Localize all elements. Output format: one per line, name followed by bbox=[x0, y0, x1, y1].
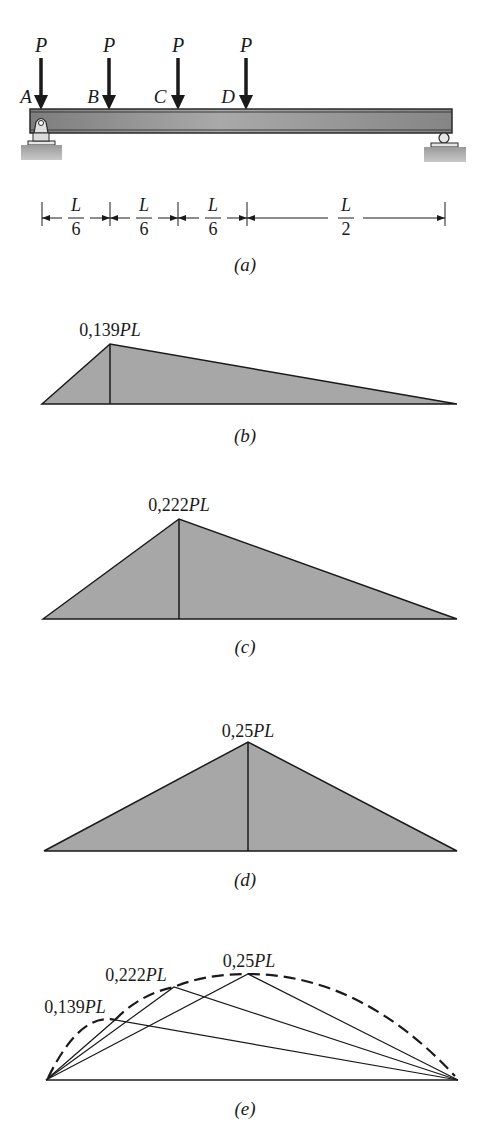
load-arrow-d: P bbox=[239, 34, 253, 110]
load-label: P bbox=[34, 34, 47, 56]
dimension-label-2: L 6 bbox=[136, 195, 152, 239]
moment-line-c bbox=[46, 987, 458, 1080]
point-label-a: A bbox=[18, 86, 32, 107]
peak-moment-label: 0,139PL bbox=[79, 320, 141, 340]
svg-text:L: L bbox=[70, 195, 81, 215]
panel-b-moment-diagram: 0,139PL (b) bbox=[42, 320, 457, 447]
point-label-c: C bbox=[154, 86, 167, 107]
caption-e: (e) bbox=[234, 1098, 255, 1120]
roller-support-icon bbox=[424, 133, 466, 162]
svg-text:L: L bbox=[138, 195, 149, 215]
arrow-down-icon bbox=[102, 95, 116, 110]
caption-d: (d) bbox=[234, 869, 256, 891]
arrow-down-icon bbox=[239, 95, 253, 110]
load-arrow-c: P bbox=[171, 34, 185, 110]
moment-line-b bbox=[46, 1020, 458, 1080]
caption-c: (c) bbox=[234, 636, 255, 658]
envelope-label-2: 0,222PL bbox=[105, 965, 167, 985]
panel-a-beam: P P P P A B C D bbox=[18, 34, 466, 276]
caption-b: (b) bbox=[234, 425, 256, 447]
moment-triangle bbox=[44, 742, 457, 851]
svg-text:6: 6 bbox=[140, 219, 149, 239]
panel-c-moment-diagram: 0,222PL (c) bbox=[43, 495, 457, 658]
dimension-line bbox=[42, 202, 445, 226]
svg-text:6: 6 bbox=[209, 219, 218, 239]
peak-moment-label: 0,222PL bbox=[148, 495, 210, 515]
dimension-label-3: L 6 bbox=[205, 195, 221, 239]
svg-text:6: 6 bbox=[72, 219, 81, 239]
beam bbox=[30, 109, 452, 133]
load-label: P bbox=[239, 34, 252, 56]
moment-triangle bbox=[42, 344, 457, 404]
caption-a: (a) bbox=[234, 254, 256, 276]
envelope-label-3: 0,25PL bbox=[223, 951, 276, 971]
point-label-b: B bbox=[87, 86, 99, 107]
panel-d-moment-diagram: 0,25PL (d) bbox=[44, 721, 457, 891]
moment-triangle bbox=[43, 519, 457, 619]
svg-text:L: L bbox=[207, 195, 218, 215]
envelope-label-1: 0,139PL bbox=[44, 997, 106, 1017]
point-label-d: D bbox=[220, 86, 235, 107]
moving-load-moment-diagram-figure: P P P P A B C D bbox=[0, 0, 491, 1130]
arrow-down-icon bbox=[171, 95, 185, 110]
svg-text:2: 2 bbox=[342, 219, 351, 239]
arrow-down-icon bbox=[34, 95, 48, 110]
load-arrow-a: P bbox=[34, 34, 48, 110]
load-label: P bbox=[171, 34, 184, 56]
dimension-label-4: L 2 bbox=[338, 195, 354, 239]
panel-e-envelope-diagram: 0,139PL 0,222PL 0,25PL (e) bbox=[44, 951, 458, 1120]
load-label: P bbox=[102, 34, 115, 56]
envelope-curve bbox=[48, 974, 455, 1078]
dimension-label-1: L 6 bbox=[68, 195, 84, 239]
svg-text:L: L bbox=[340, 195, 351, 215]
peak-moment-label: 0,25PL bbox=[222, 721, 275, 741]
load-arrow-b: P bbox=[102, 34, 116, 110]
